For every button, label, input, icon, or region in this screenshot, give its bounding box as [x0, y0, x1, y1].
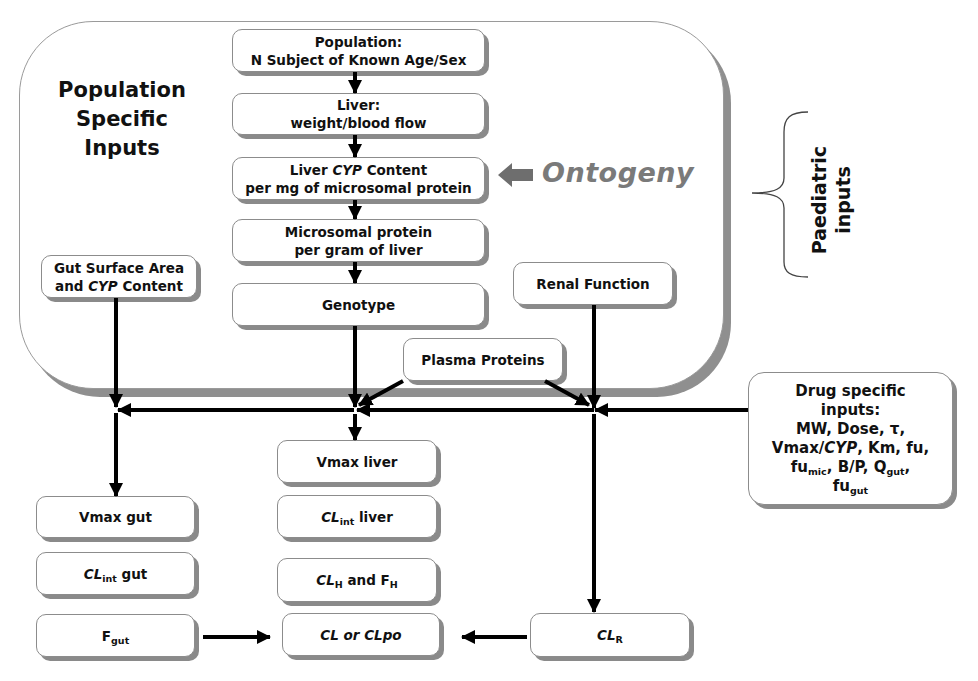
subscript: gut	[111, 635, 129, 646]
text-part: CL	[597, 627, 616, 643]
text-part: and	[55, 278, 88, 294]
box-text: inputs:	[821, 401, 880, 420]
box-text: Liver CYP Content	[290, 161, 427, 179]
paediatric-inputs-label: Paediatric inputs	[807, 140, 855, 260]
liver-weight-box: Liver: weight/blood flow	[232, 93, 485, 135]
box-text: fumic, B/P, Qgut,	[791, 458, 911, 477]
box-text: Vmax gut	[79, 508, 152, 526]
liver-cyp-content-box: Liver CYP Content per mg of microsomal p…	[232, 157, 485, 200]
text-part: CYP	[824, 439, 857, 457]
box-text: CLR	[597, 626, 623, 644]
box-text: per mg of microsomal protein	[245, 179, 471, 197]
curly-brace-icon	[752, 112, 808, 277]
drug-specific-inputs-box: Drug specific inputs: MW, Dose, τ, Vmax/…	[748, 372, 953, 505]
f-gut-box: Fgut	[36, 614, 195, 657]
box-text: Gut Surface Area	[54, 259, 184, 277]
box-text: Genotype	[322, 296, 395, 314]
subscript: gut	[850, 485, 868, 496]
text-part: Content	[118, 278, 183, 294]
title-line: Specific	[40, 105, 204, 134]
vmax-liver-box: Vmax liver	[277, 440, 437, 483]
text-part: liver	[354, 509, 393, 525]
label-line: Paediatric	[807, 140, 831, 260]
subscript: int	[102, 573, 117, 584]
text-part: CYP	[88, 278, 118, 294]
box-text: fugut	[833, 477, 868, 496]
box-text: CLH and FH	[316, 571, 397, 589]
box-text: Vmax liver	[317, 453, 398, 471]
title-line: Population	[40, 76, 204, 105]
clh-fh-box: CLH and FH	[277, 558, 437, 602]
title-line: Inputs	[40, 134, 204, 163]
subscript: R	[616, 634, 623, 645]
box-text: CLint gut	[84, 565, 148, 583]
cl-or-clpo-box: CL or CLpo	[282, 613, 440, 656]
text-part: CL	[316, 572, 335, 588]
box-text: Vmax/CYP, Km, fu,	[772, 439, 929, 458]
box-text: N Subject of Known Age/Sex	[251, 51, 467, 69]
box-text: CLint liver	[321, 508, 393, 526]
cl-r-box: CLR	[530, 613, 690, 657]
text-part: fu	[833, 477, 850, 495]
text-part: CYP	[332, 162, 362, 178]
renal-function-box: Renal Function	[513, 262, 673, 305]
vmax-gut-box: Vmax gut	[36, 496, 195, 538]
box-text: Drug specific	[795, 382, 905, 401]
population-box: Population: N Subject of Known Age/Sex	[232, 29, 485, 72]
text-part: Vmax/	[772, 439, 825, 457]
subscript: mic	[808, 466, 827, 477]
box-text: MW, Dose, τ,	[796, 420, 905, 439]
gut-surface-area-box: Gut Surface Area and CYP Content	[41, 255, 197, 298]
text-part: and F	[343, 572, 390, 588]
text-part: , B/P, Q	[827, 458, 887, 476]
box-text: Population:	[315, 33, 403, 51]
box-text: Microsomal protein	[285, 223, 432, 241]
box-text: and CYP Content	[55, 277, 183, 295]
subscript: int	[340, 516, 355, 527]
clint-liver-box: CLint liver	[277, 495, 437, 538]
plasma-proteins-box: Plasma Proteins	[403, 338, 563, 381]
text-part: gut	[117, 566, 147, 582]
box-text: Fgut	[102, 627, 129, 645]
subscript: H	[390, 579, 398, 590]
subscript: H	[335, 579, 343, 590]
text-part: CL	[321, 509, 340, 525]
box-text: weight/blood flow	[291, 114, 427, 132]
text-part: Liver	[290, 162, 333, 178]
text-part: , Km, fu,	[857, 439, 929, 457]
text-part: fu	[791, 458, 808, 476]
microsomal-protein-box: Microsomal protein per gram of liver	[232, 219, 485, 262]
text-part: CL	[84, 566, 103, 582]
population-specific-inputs-title: Population Specific Inputs	[40, 76, 204, 163]
label-line: inputs	[831, 140, 855, 260]
clint-gut-box: CLint gut	[36, 552, 195, 595]
text-part: ,	[905, 458, 911, 476]
box-text: Renal Function	[536, 275, 649, 293]
box-text: Liver:	[337, 96, 380, 114]
pbpk-diagram: Population Specific Inputs Population: N…	[0, 0, 978, 681]
genotype-box: Genotype	[232, 283, 485, 326]
text-part: Content	[362, 162, 427, 178]
box-text: Plasma Proteins	[421, 351, 544, 369]
subscript: gut	[886, 466, 904, 477]
text-part: F	[102, 628, 111, 644]
ontogeny-label: Ontogeny	[542, 157, 694, 188]
box-text: per gram of liver	[294, 241, 422, 259]
box-text: CL or CLpo	[320, 626, 401, 644]
